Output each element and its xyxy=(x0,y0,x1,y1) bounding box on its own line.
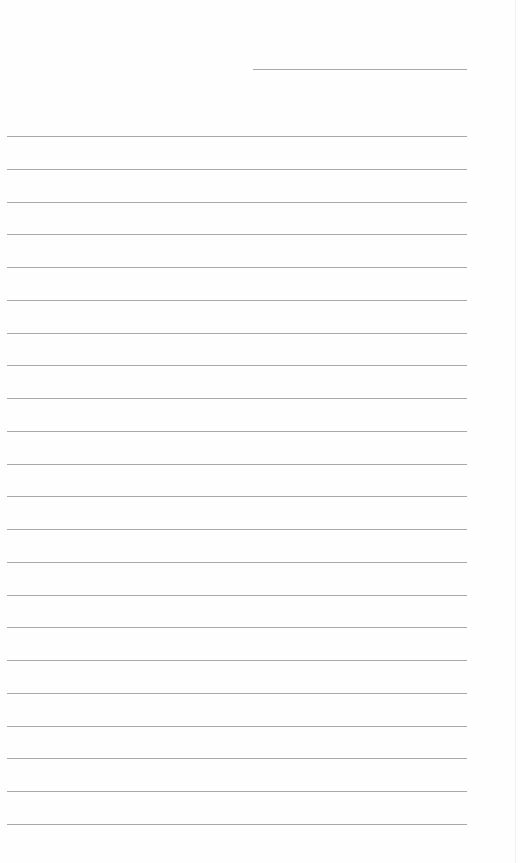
ruled-line xyxy=(7,660,467,661)
ruled-line xyxy=(7,693,467,694)
ruled-line xyxy=(7,398,467,399)
header-line xyxy=(253,69,467,70)
ruled-line xyxy=(7,758,467,759)
page-edge xyxy=(515,0,516,863)
ruled-line xyxy=(7,464,467,465)
ruled-line xyxy=(7,791,467,792)
ruled-line xyxy=(7,726,467,727)
ruled-line xyxy=(7,333,467,334)
ruled-line xyxy=(7,267,467,268)
lined-paper-page xyxy=(0,0,520,863)
ruled-line xyxy=(7,365,467,366)
ruled-line xyxy=(7,529,467,530)
ruled-line xyxy=(7,234,467,235)
ruled-line xyxy=(7,595,467,596)
ruled-line xyxy=(7,300,467,301)
ruled-line xyxy=(7,136,467,137)
ruled-line xyxy=(7,431,467,432)
ruled-line xyxy=(7,202,467,203)
ruled-line xyxy=(7,627,467,628)
ruled-line xyxy=(7,824,467,825)
ruled-line xyxy=(7,169,467,170)
ruled-line xyxy=(7,496,467,497)
ruled-line xyxy=(7,562,467,563)
